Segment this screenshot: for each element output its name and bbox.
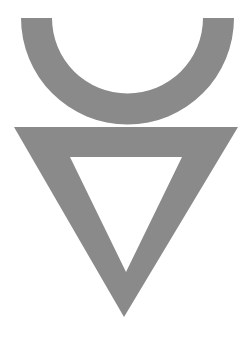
symbol-glyph: [0, 0, 250, 339]
image-canvas: [0, 0, 250, 339]
